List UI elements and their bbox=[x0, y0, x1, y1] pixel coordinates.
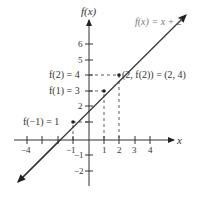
point-1-3 bbox=[102, 89, 106, 93]
y-tick-neg2: −2 bbox=[74, 166, 84, 176]
x-tick-4: 4 bbox=[148, 145, 153, 155]
y-tick-1: f(−1) = 1 bbox=[23, 116, 59, 128]
y-tick-5: 5 bbox=[78, 55, 83, 65]
x-tick-neg1: −1 bbox=[66, 145, 76, 155]
x-tick-2: 2 bbox=[117, 145, 122, 155]
y-axis-label: f(x) bbox=[81, 5, 97, 18]
x-tick-neg4: −4 bbox=[21, 145, 31, 155]
point-2-4 bbox=[117, 73, 121, 77]
point-neg1-1 bbox=[71, 120, 75, 124]
point-2-4-label: (2, f(2)) = (2, 4) bbox=[122, 69, 186, 81]
y-tick-3: f(1) = 3 bbox=[49, 85, 80, 97]
y-tick-2: 2 bbox=[78, 101, 83, 111]
x-axis-label: x bbox=[176, 134, 182, 146]
x-tick-1: 1 bbox=[102, 145, 107, 155]
y-tick-4: f(2) = 4 bbox=[49, 69, 80, 81]
function-label: f(x) = x + 2 bbox=[135, 16, 182, 28]
function-graph: f(x) x f(x) = x + 2 (2, f(2)) = (2, 4) 6… bbox=[0, 0, 202, 199]
y-tick-6: 6 bbox=[78, 39, 83, 49]
x-tick-3: 3 bbox=[132, 145, 137, 155]
